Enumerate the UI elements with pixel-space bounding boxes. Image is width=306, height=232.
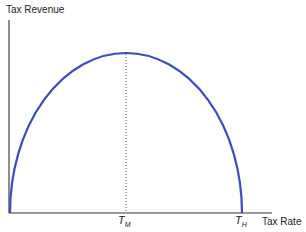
y-axis-label: Tax Revenue [6,4,64,15]
tm-sub: M [125,221,131,228]
th-main: T [235,214,242,226]
tm-tick-label: TM [118,214,131,228]
tm-main: T [118,214,125,226]
th-tick-label: TH [235,214,247,228]
x-axis-label: Tax Rate [262,216,301,227]
chart-canvas [0,0,306,232]
th-sub: H [242,221,247,228]
